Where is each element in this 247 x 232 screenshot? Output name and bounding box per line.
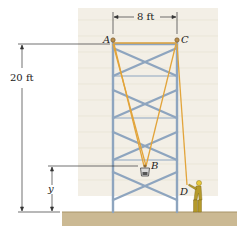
point-d-label: D [180, 187, 188, 197]
scaffold-pulley-diagram: 8 ft 20 ft A C B D y [0, 0, 247, 232]
ground [62, 212, 237, 226]
dimension-height-label: 20 ft [10, 73, 34, 83]
pulley-a-icon [111, 38, 115, 42]
point-b-label: B [151, 161, 158, 171]
diagram-canvas [0, 0, 247, 232]
dimension-width-label: 8 ft [137, 12, 154, 22]
dimension-y-label: y [48, 184, 54, 194]
pulley-c-icon [175, 38, 179, 42]
point-a-label: A [103, 35, 110, 45]
point-c-label: C [181, 35, 189, 45]
